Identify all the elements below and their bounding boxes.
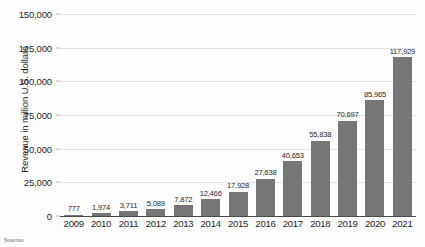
bar bbox=[64, 215, 83, 216]
bar-column: 12,466 bbox=[197, 14, 224, 216]
bar bbox=[365, 100, 384, 216]
x-tick-label: 2017 bbox=[279, 218, 306, 234]
bar-value-label: 70,697 bbox=[337, 110, 359, 119]
bar-column: 85,965 bbox=[361, 14, 388, 216]
bar bbox=[338, 121, 357, 216]
bar bbox=[201, 199, 220, 216]
bar-column: 1,974 bbox=[87, 14, 114, 216]
bar-column: 117,929 bbox=[389, 14, 416, 216]
bar-value-label: 12,466 bbox=[200, 189, 222, 198]
bar-column: 7,872 bbox=[170, 14, 197, 216]
x-tick-label: 2018 bbox=[307, 218, 334, 234]
y-tick-label: 75,000 bbox=[24, 110, 52, 121]
bar bbox=[311, 141, 330, 216]
bar-column: 5,089 bbox=[142, 14, 169, 216]
y-tick-label: 50,000 bbox=[24, 143, 52, 154]
bar-chart: Revenue in million U.S. dollars 025,0005… bbox=[0, 0, 425, 247]
bar bbox=[256, 179, 275, 216]
x-tick-label: 2015 bbox=[224, 218, 251, 234]
bar bbox=[146, 209, 165, 216]
bar-value-label: 17,928 bbox=[227, 181, 249, 190]
bar bbox=[119, 211, 138, 216]
source-label: Sources bbox=[4, 237, 24, 243]
x-tick-label: 2019 bbox=[334, 218, 361, 234]
x-tick-label: 2013 bbox=[170, 218, 197, 234]
bar bbox=[229, 192, 248, 216]
y-tick-label: 0 bbox=[47, 211, 52, 222]
x-tick-label: 2009 bbox=[60, 218, 87, 234]
bar-value-label: 85,965 bbox=[364, 90, 386, 99]
bar bbox=[283, 161, 302, 216]
x-tick-label: 2014 bbox=[197, 218, 224, 234]
bar bbox=[92, 213, 111, 216]
y-tick-label: 150,000 bbox=[19, 9, 52, 20]
bar-value-label: 55,838 bbox=[309, 130, 331, 139]
bar-series: 7771,9743,7115,0897,87212,46617,92827,63… bbox=[60, 14, 416, 216]
x-tick-label: 2021 bbox=[389, 218, 416, 234]
y-tick-label: 100,000 bbox=[19, 76, 52, 87]
bar-column: 27,638 bbox=[252, 14, 279, 216]
bar-value-label: 1,974 bbox=[92, 203, 110, 212]
bar-column: 55,838 bbox=[307, 14, 334, 216]
bar-value-label: 3,711 bbox=[120, 201, 137, 210]
axis-baseline bbox=[60, 216, 416, 217]
bar-column: 3,711 bbox=[115, 14, 142, 216]
y-axis-tick-labels: 025,00050,00075,000100,000125,000150,000 bbox=[0, 14, 56, 216]
bar-value-label: 7,872 bbox=[174, 195, 192, 204]
bar-value-label: 40,653 bbox=[282, 151, 304, 160]
bar-value-label: 117,929 bbox=[390, 47, 416, 56]
x-tick-label: 2010 bbox=[87, 218, 114, 234]
x-tick-label: 2011 bbox=[115, 218, 142, 234]
bar-value-label: 5,089 bbox=[147, 199, 165, 208]
chart-footer: Sources bbox=[4, 237, 421, 247]
x-tick-label: 2016 bbox=[252, 218, 279, 234]
y-tick-label: 25,000 bbox=[24, 177, 52, 188]
bar-column: 777 bbox=[60, 14, 87, 216]
bar-column: 70,697 bbox=[334, 14, 361, 216]
x-tick-label: 2012 bbox=[142, 218, 169, 234]
y-tick-label: 125,000 bbox=[19, 42, 52, 53]
bar-value-label: 27,638 bbox=[254, 168, 276, 177]
bar-value-label: 777 bbox=[68, 204, 80, 213]
x-axis-tick-labels: 2009201020112012201320142015201620172018… bbox=[60, 218, 416, 234]
x-tick-label: 2020 bbox=[361, 218, 388, 234]
bar bbox=[393, 57, 412, 216]
bar-column: 17,928 bbox=[224, 14, 251, 216]
plot-area: 7771,9743,7115,0897,87212,46617,92827,63… bbox=[60, 14, 416, 216]
bar bbox=[174, 205, 193, 216]
bar-column: 40,653 bbox=[279, 14, 306, 216]
